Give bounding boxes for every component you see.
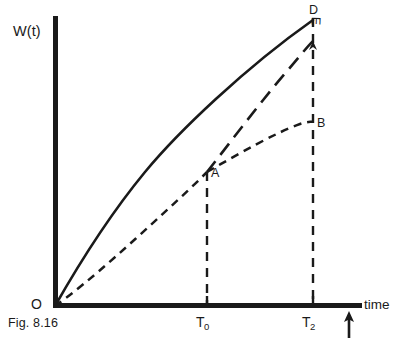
point-label-b: B (317, 117, 325, 130)
dashed-curve-ab (207, 122, 313, 173)
figure-caption: Fig. 8.16 (8, 317, 58, 330)
point-label-a: A (211, 167, 219, 180)
tick-label-t2: T2 (302, 315, 316, 329)
origin-label: O (31, 297, 42, 311)
plot-canvas (0, 0, 409, 348)
tick-label-t0: T0 (196, 315, 210, 329)
x-axis-label: time (364, 298, 390, 312)
tick-label-t0-sub: 0 (204, 321, 209, 332)
point-label-e: E (309, 17, 322, 26)
dashed-curve-oab (55, 172, 207, 306)
point-label-d: D (309, 4, 318, 17)
y-axis-label: W(t) (13, 24, 41, 39)
solid-curve-od (55, 20, 313, 306)
figure-container: W(t) time O Fig. 8.16 T0 T2 A B D E (0, 0, 409, 348)
up-arrow-marker-icon (344, 311, 354, 338)
tick-label-t2-sub: 2 (310, 321, 315, 332)
